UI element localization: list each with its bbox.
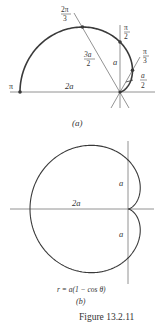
panel-b: 2a a a r = a(1 − cos θ) (b) <box>10 141 154 306</box>
label-2a-b: 2a <box>72 198 81 208</box>
label-3a2-den: 2 <box>87 59 91 68</box>
label-2pi-3-num: 2π <box>61 5 69 14</box>
pole-a <box>118 90 121 93</box>
point-pi-2 <box>118 40 122 44</box>
label-pi-2-den: 2 <box>124 32 128 41</box>
label-pi-3-den: 3 <box>143 56 147 65</box>
label-a-a: a <box>113 57 117 67</box>
label-2a-a: 2a <box>65 81 74 91</box>
point-pi-3 <box>131 69 135 73</box>
panel-b-label: (b) <box>76 297 86 306</box>
panel-a: 2π 3 π 2 π 3 π 2a a 3a 2 a 2 (a) <box>9 5 155 128</box>
label-pi-2-num: π <box>124 23 128 32</box>
point-pi <box>18 90 22 94</box>
point-2pi-3 <box>81 25 85 29</box>
label-a2-num: a <box>141 71 145 80</box>
label-3a2-num: 3a <box>83 50 92 59</box>
figure-caption: Figure 13.2.11 <box>79 312 135 322</box>
label-2pi-3-den: 3 <box>63 14 67 23</box>
label-pi: π <box>9 82 13 91</box>
equation-label: r = a(1 − cos θ) <box>57 285 106 294</box>
label-a-top: a <box>119 178 123 188</box>
label-a-bottom: a <box>119 229 123 239</box>
label-a2-den: 2 <box>141 81 145 90</box>
label-pi-3-num: π <box>143 47 147 56</box>
panel-a-label: (a) <box>72 118 83 128</box>
cardioid-figure: 2π 3 π 2 π 3 π 2a a 3a 2 a 2 (a) 2a a a … <box>0 0 163 327</box>
